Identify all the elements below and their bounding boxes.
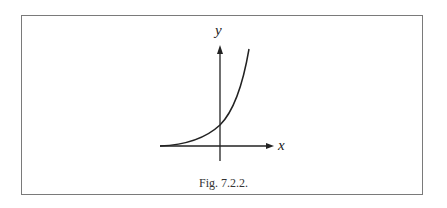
x-axis-arrow-icon <box>266 143 274 149</box>
y-axis-label: y <box>215 22 222 39</box>
x-axis-label: x <box>278 137 285 154</box>
exponential-curve <box>160 49 249 146</box>
y-axis-arrow-icon <box>217 45 223 54</box>
figure-caption: Fig. 7.2.2. <box>0 176 447 191</box>
